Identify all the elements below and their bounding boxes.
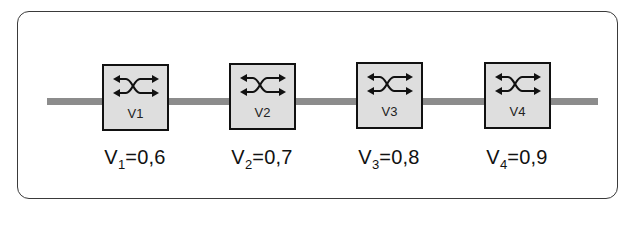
switch-v4: V4 [484,62,551,129]
switch-crossed-arrows-icon [112,73,160,99]
switch-label: V1 [104,106,167,121]
switch-crossed-arrows-icon [239,72,287,98]
switch-label: V4 [486,104,549,119]
switch-value-v3: V3=0,8 [329,146,449,169]
switch-label: V2 [231,105,294,120]
switch-value-v1: V1=0,6 [75,146,195,169]
switch-value-v2: V2=0,7 [202,146,322,169]
switch-crossed-arrows-icon [366,71,414,97]
switch-v3: V3 [356,62,423,129]
switch-v1: V1 [102,64,169,131]
switch-value-v4: V4=0,9 [457,146,577,169]
switch-crossed-arrows-icon [494,71,542,97]
switch-label: V3 [358,104,421,119]
switch-v2: V2 [229,63,296,130]
